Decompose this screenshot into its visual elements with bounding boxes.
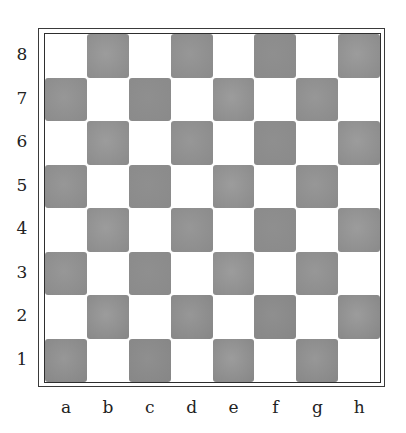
- rank-label-5: 5: [14, 175, 30, 195]
- square-a6: [45, 121, 87, 165]
- square-g6: [296, 121, 338, 165]
- square-e8: [213, 34, 255, 78]
- square-f4: [254, 208, 296, 252]
- square-c3: [129, 252, 171, 296]
- square-e2: [213, 295, 255, 339]
- square-f5: [254, 165, 296, 209]
- square-c5: [129, 165, 171, 209]
- square-d6: [171, 121, 213, 165]
- square-e1: [213, 339, 255, 383]
- square-e5: [213, 165, 255, 209]
- square-a2: [45, 295, 87, 339]
- chessboard-grid: [45, 34, 380, 382]
- square-h8: [338, 34, 380, 78]
- square-h6: [338, 121, 380, 165]
- square-g7: [296, 78, 338, 122]
- file-label-c: c: [140, 397, 160, 417]
- square-f8: [254, 34, 296, 78]
- square-d4: [171, 208, 213, 252]
- square-c6: [129, 121, 171, 165]
- rank-label-4: 4: [14, 218, 30, 238]
- square-e7: [213, 78, 255, 122]
- square-c7: [129, 78, 171, 122]
- file-label-f: f: [266, 397, 286, 417]
- rank-label-3: 3: [14, 262, 30, 282]
- square-a3: [45, 252, 87, 296]
- square-d8: [171, 34, 213, 78]
- square-a5: [45, 165, 87, 209]
- file-label-h: h: [349, 397, 369, 417]
- square-h2: [338, 295, 380, 339]
- square-b7: [87, 78, 129, 122]
- square-g8: [296, 34, 338, 78]
- square-f1: [254, 339, 296, 383]
- file-label-g: g: [307, 397, 327, 417]
- square-b3: [87, 252, 129, 296]
- square-g5: [296, 165, 338, 209]
- file-label-e: e: [224, 397, 244, 417]
- square-h7: [338, 78, 380, 122]
- square-b2: [87, 295, 129, 339]
- rank-label-7: 7: [14, 88, 30, 108]
- square-c2: [129, 295, 171, 339]
- square-b5: [87, 165, 129, 209]
- rank-label-6: 6: [14, 131, 30, 151]
- file-label-b: b: [98, 397, 118, 417]
- square-f6: [254, 121, 296, 165]
- square-g4: [296, 208, 338, 252]
- square-b1: [87, 339, 129, 383]
- square-b4: [87, 208, 129, 252]
- square-a7: [45, 78, 87, 122]
- file-label-a: a: [56, 397, 76, 417]
- rank-label-1: 1: [14, 349, 30, 369]
- square-f2: [254, 295, 296, 339]
- square-d3: [171, 252, 213, 296]
- square-h1: [338, 339, 380, 383]
- square-b8: [87, 34, 129, 78]
- square-c1: [129, 339, 171, 383]
- square-d5: [171, 165, 213, 209]
- square-e6: [213, 121, 255, 165]
- square-g3: [296, 252, 338, 296]
- rank-label-2: 2: [14, 305, 30, 325]
- square-h4: [338, 208, 380, 252]
- square-g2: [296, 295, 338, 339]
- square-b6: [87, 121, 129, 165]
- square-g1: [296, 339, 338, 383]
- square-h5: [338, 165, 380, 209]
- square-d7: [171, 78, 213, 122]
- square-h3: [338, 252, 380, 296]
- square-c4: [129, 208, 171, 252]
- square-e4: [213, 208, 255, 252]
- square-e3: [213, 252, 255, 296]
- square-a8: [45, 34, 87, 78]
- square-f7: [254, 78, 296, 122]
- square-d1: [171, 339, 213, 383]
- rank-label-8: 8: [14, 44, 30, 64]
- square-f3: [254, 252, 296, 296]
- square-c8: [129, 34, 171, 78]
- square-a4: [45, 208, 87, 252]
- square-d2: [171, 295, 213, 339]
- square-a1: [45, 339, 87, 383]
- file-label-d: d: [182, 397, 202, 417]
